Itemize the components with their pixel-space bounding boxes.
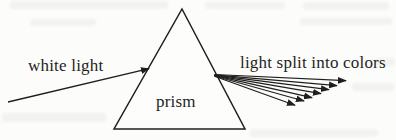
white-light-label: white light (28, 57, 103, 74)
prism-label: prism (156, 93, 196, 110)
prism-dispersion-diagram: white light prism light split into color… (0, 0, 396, 140)
dispersed-ray-fan (215, 75, 347, 106)
light-split-into-colors-label: light split into colors (240, 54, 386, 71)
prism-outline (114, 9, 245, 129)
